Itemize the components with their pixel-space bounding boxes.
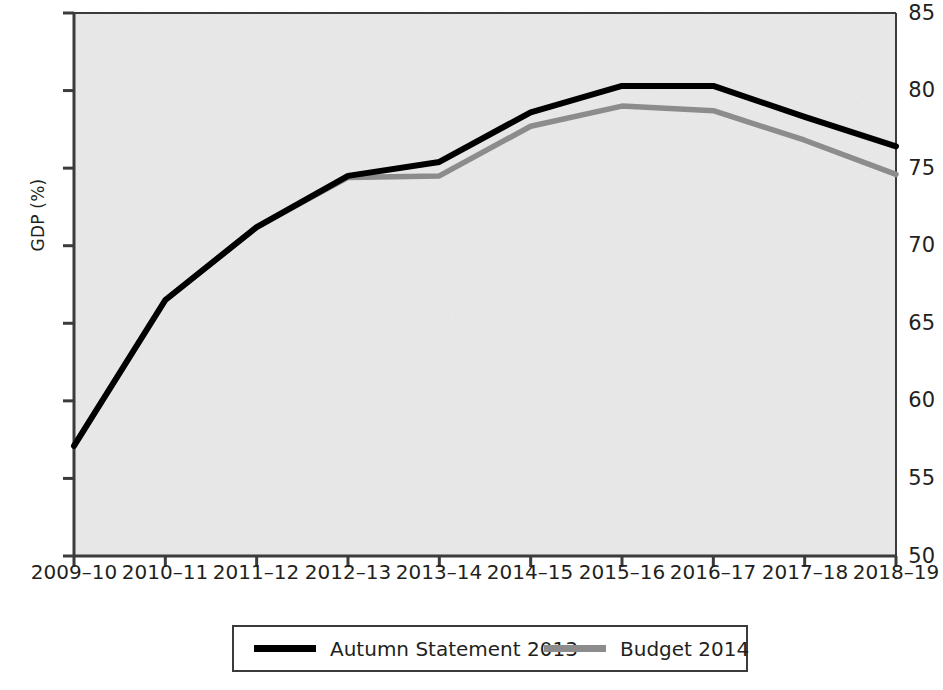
y-tick-label-80: 80 xyxy=(891,80,935,101)
plot-area-background xyxy=(74,13,896,556)
legend-label-autumn-statement-2013: Autumn Statement 2013 xyxy=(330,637,578,661)
x-tick-label-9: 2018–19 xyxy=(836,562,943,582)
legend-label-budget-2014: Budget 2014 xyxy=(620,637,749,661)
series-line-budget-2014 xyxy=(74,106,896,446)
y-tick-label-75: 75 xyxy=(891,158,935,179)
legend-line-swatch-gray xyxy=(544,645,606,652)
y-axis-title: GDP (%) xyxy=(28,135,48,295)
y-tick-label-65: 65 xyxy=(891,313,935,334)
y-tick-label-70: 70 xyxy=(891,235,935,256)
legend-line-swatch-black xyxy=(254,645,316,652)
y-tick-label-55: 55 xyxy=(891,468,935,489)
chart-axes xyxy=(63,13,896,567)
y-tick-label-85: 85 xyxy=(891,3,935,24)
legend-item-autumn-statement-2013: Autumn Statement 2013 xyxy=(254,627,578,670)
chart-series-lines xyxy=(74,86,896,446)
y-tick-label-60: 60 xyxy=(891,390,935,411)
series-line-autumn-statement-2013 xyxy=(74,86,896,446)
chart-legend: Autumn Statement 2013 Budget 2014 xyxy=(232,625,748,672)
legend-item-budget-2014: Budget 2014 xyxy=(544,627,749,670)
